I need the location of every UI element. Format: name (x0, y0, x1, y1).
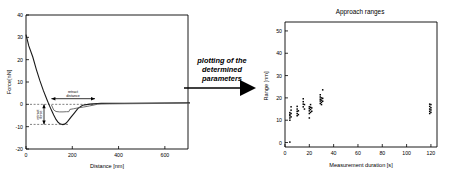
retract-distance-annotation: retract distance (51, 90, 95, 101)
x-tick-label: 100 (402, 150, 411, 156)
plot-frame (285, 22, 437, 147)
x-tick-label: 120 (427, 150, 436, 156)
data-point (290, 113, 292, 115)
y-tick-label: 30 (276, 73, 282, 79)
y-axis-title: Force[nN] (6, 69, 12, 94)
y-tick-label: 20 (17, 57, 23, 63)
data-point (310, 109, 312, 111)
x-tick-label: 600 (161, 152, 170, 158)
data-point (309, 110, 311, 112)
y-tick-label: 40 (276, 50, 282, 56)
figure-container: 40 30 20 10 0 -10 -20 0 200 400 600 (0, 0, 450, 176)
data-point (304, 104, 306, 106)
x-tick-label: 60 (355, 150, 361, 156)
data-point (430, 107, 432, 109)
plot-frame (26, 15, 188, 149)
data-point (310, 104, 312, 106)
retract-curve (51, 103, 190, 112)
x-tick-label: 40 (331, 150, 337, 156)
data-point (304, 108, 306, 110)
data-point (321, 104, 323, 106)
x-tick-label: 200 (68, 152, 77, 158)
y-tick-label: 0 (279, 140, 282, 146)
data-point (322, 89, 324, 91)
scatter-points (289, 89, 432, 143)
y-axis-tick-labels: 40 30 20 10 0 -10 -20 (16, 12, 24, 152)
retract-force-label-line2: force (39, 111, 43, 119)
y-tick-label: 40 (17, 12, 23, 18)
y-tick-label: -10 (16, 124, 24, 130)
y-axis-title: Range [nm] (263, 71, 269, 100)
approach-ranges-chart: Approach ranges 0 10 20 30 40 50 (255, 0, 450, 176)
transition-arrow-svg (182, 0, 262, 176)
x-tick-label: 20 (306, 150, 312, 156)
data-point (298, 114, 300, 116)
retract-force-annotation: retract force (36, 104, 46, 124)
data-point (296, 106, 298, 108)
chart-title: Approach ranges (336, 8, 385, 16)
data-point (290, 116, 292, 118)
y-tick-label: 10 (17, 79, 23, 85)
y-tick-label: 30 (17, 34, 23, 40)
x-tick-label: 80 (379, 150, 385, 156)
x-tick-label: 0 (284, 150, 287, 156)
y-axis-ticks (285, 31, 288, 143)
y-axis-tick-labels: 0 10 20 30 40 50 (276, 28, 282, 146)
data-point (296, 108, 298, 110)
force-distance-svg: 40 30 20 10 0 -10 -20 0 200 400 600 (0, 0, 200, 176)
transition-arrow-label: plotting of the determined parameters (182, 56, 262, 84)
y-tick-label: 10 (276, 117, 282, 123)
x-axis-tick-labels: 0 200 400 600 (25, 152, 170, 158)
x-axis-title: Measurement duration [s] (329, 162, 393, 168)
transition-arrow-container: plotting of the determined parameters (182, 0, 262, 176)
data-point (309, 117, 311, 119)
y-tick-label: 20 (276, 95, 282, 101)
data-point (290, 109, 292, 111)
data-point (430, 109, 432, 111)
y-tick-label: -20 (16, 146, 24, 152)
y-tick-label: 0 (20, 101, 23, 107)
approach-curve (26, 35, 190, 125)
retract-distance-label-line2: distance (66, 94, 79, 98)
data-point (302, 98, 304, 100)
x-axis-title: Distance [nm] (90, 163, 125, 169)
data-point (311, 111, 313, 113)
data-point (322, 100, 324, 102)
data-point (302, 101, 304, 103)
data-point (302, 106, 304, 108)
data-point (430, 104, 432, 106)
data-point (430, 112, 432, 114)
force-distance-chart: 40 30 20 10 0 -10 -20 0 200 400 600 (0, 0, 200, 176)
data-point (311, 107, 313, 109)
data-point (289, 119, 291, 121)
data-point (322, 98, 324, 100)
x-tick-label: 0 (25, 152, 28, 158)
data-point (289, 141, 291, 143)
data-point (298, 110, 300, 112)
x-tick-label: 400 (114, 152, 123, 158)
data-point (429, 106, 431, 108)
data-point (290, 106, 292, 108)
approach-ranges-svg: Approach ranges 0 10 20 30 40 50 (255, 0, 450, 176)
data-point (320, 94, 322, 96)
y-tick-label: 50 (276, 28, 282, 34)
x-axis-tick-labels: 0 20 40 60 80 100 120 (284, 150, 436, 156)
